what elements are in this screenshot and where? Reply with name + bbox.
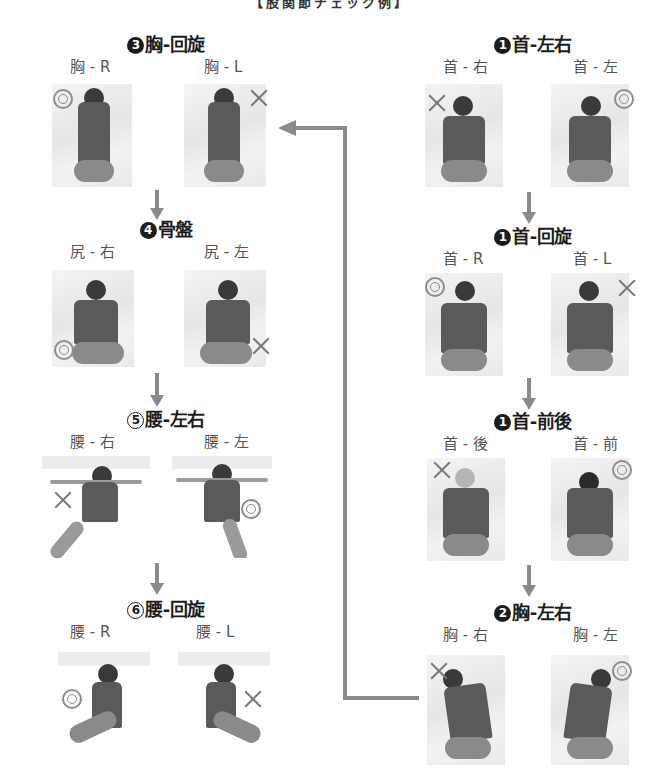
step-number: 1 bbox=[494, 414, 511, 431]
section-heading: 4骨盤 bbox=[46, 220, 286, 240]
figure-legs bbox=[567, 737, 613, 759]
photo-label-left: 胸 - 右 bbox=[443, 623, 488, 644]
step-number: 4 bbox=[140, 222, 157, 239]
photo-label-right: 腰 - L bbox=[196, 620, 234, 641]
photo-label-right: 腰 - 左 bbox=[204, 430, 249, 451]
step-number: 5 bbox=[127, 412, 144, 429]
section-chest-rotation: 3胸-回旋 胸 - R 胸 - L bbox=[46, 35, 286, 73]
section-neck-front-back: 1首-前後 首 - 後 首 - 前 bbox=[413, 412, 653, 450]
figure-legs bbox=[441, 349, 487, 371]
double-circle-icon bbox=[425, 277, 445, 297]
page-title: 【股関節チェック例】 bbox=[215, 0, 445, 6]
figure-body bbox=[78, 102, 110, 164]
flow-connector-horizontal-top bbox=[294, 126, 347, 130]
section-waist-left-right: 5腰-左右 腰 - 右 腰 - 左 bbox=[46, 410, 286, 448]
figure-legs bbox=[211, 708, 264, 745]
section-neck-rotation: 1首-回旋 首 - R 首 - L bbox=[413, 227, 653, 265]
cross-icon bbox=[427, 93, 447, 113]
section-heading: 1首-前後 bbox=[413, 412, 653, 432]
figure-legs bbox=[221, 517, 249, 558]
section-title: 胸-回旋 bbox=[145, 34, 204, 55]
figure-body bbox=[206, 300, 250, 344]
step-number: 1 bbox=[494, 229, 511, 246]
flow-connector-horizontal-bottom bbox=[343, 696, 419, 700]
photo-label-left: 首 - 右 bbox=[443, 55, 488, 76]
double-circle-icon bbox=[612, 661, 632, 681]
double-circle-icon bbox=[614, 89, 634, 109]
figure-legs bbox=[567, 349, 613, 371]
section-title: 首-左右 bbox=[512, 34, 571, 55]
photo-label-left: 胸 - R bbox=[70, 55, 110, 76]
double-circle-icon bbox=[54, 340, 74, 360]
figure-legs bbox=[47, 519, 86, 558]
figure-head bbox=[455, 468, 475, 488]
figure-head bbox=[455, 281, 475, 301]
figure-legs bbox=[441, 160, 487, 182]
figure-body bbox=[208, 102, 240, 164]
figure-body bbox=[74, 300, 118, 344]
section-heading: 3胸-回旋 bbox=[46, 35, 286, 55]
step-number: 2 bbox=[494, 605, 511, 622]
section-heading: 1首-左右 bbox=[413, 35, 653, 55]
step-number: 3 bbox=[127, 37, 144, 54]
figure-head bbox=[214, 664, 234, 684]
cross-icon bbox=[432, 460, 452, 480]
figure-legs bbox=[443, 534, 489, 556]
section-chest-left-right: 2胸-左右 胸 - 右 胸 - 左 bbox=[413, 603, 653, 641]
figure-body bbox=[567, 303, 613, 353]
figure-head bbox=[579, 281, 599, 301]
figure-body bbox=[443, 682, 492, 743]
section-title: 首-回旋 bbox=[512, 226, 571, 247]
figure-legs bbox=[445, 737, 491, 759]
photo-label-left: 腰 - 右 bbox=[70, 430, 115, 451]
figure-head bbox=[86, 280, 106, 300]
figure-legs bbox=[200, 342, 252, 364]
step-number: 6 bbox=[127, 602, 144, 619]
photo-label-right: 首 - 前 bbox=[573, 432, 618, 453]
section-title: 骨盤 bbox=[158, 219, 193, 240]
figure-body bbox=[443, 116, 485, 164]
section-pelvis: 4骨盤 尻 - 右 尻 - 左 bbox=[46, 220, 286, 258]
photo-label-left: 首 - R bbox=[443, 247, 483, 268]
section-heading: 5腰-左右 bbox=[46, 410, 286, 430]
double-circle-icon bbox=[62, 689, 82, 709]
figure-legs bbox=[74, 160, 114, 182]
photo-label-right: 首 - 左 bbox=[573, 55, 618, 76]
section-neck-left-right: 1首-左右 首 - 右 首 - 左 bbox=[413, 35, 653, 73]
figure-body bbox=[567, 488, 613, 538]
section-waist-rotation: 6腰-回旋 腰 - R 腰 - L bbox=[46, 600, 286, 638]
figure-head bbox=[453, 96, 473, 116]
figure-body bbox=[82, 482, 118, 522]
photo-label-right: 胸 - L bbox=[204, 55, 242, 76]
photo-label-right: 胸 - 左 bbox=[573, 623, 618, 644]
photo-label-right: 尻 - 左 bbox=[204, 240, 249, 261]
flow-arrow-left bbox=[278, 120, 296, 136]
figure-legs bbox=[72, 342, 124, 364]
section-title: 腰-左右 bbox=[145, 409, 204, 430]
flow-connector-vertical bbox=[343, 126, 347, 700]
photo-label-left: 腰 - R bbox=[70, 620, 110, 641]
section-heading: 6腰-回旋 bbox=[46, 600, 286, 620]
double-circle-icon bbox=[612, 460, 632, 480]
figure-head bbox=[98, 664, 118, 684]
section-title: 胸-左右 bbox=[512, 602, 571, 623]
figure-head bbox=[581, 96, 601, 116]
section-heading: 1首-回旋 bbox=[413, 227, 653, 247]
section-heading: 2胸-左右 bbox=[413, 603, 653, 623]
section-title: 首-前後 bbox=[512, 411, 571, 432]
cross-icon bbox=[429, 661, 449, 681]
photo-label-left: 首 - 後 bbox=[443, 432, 488, 453]
double-circle-icon bbox=[241, 499, 261, 519]
cross-icon bbox=[53, 490, 73, 510]
section-title: 腰-回旋 bbox=[145, 599, 204, 620]
figure-legs bbox=[567, 534, 613, 556]
photo-label-right: 首 - L bbox=[573, 247, 611, 268]
figure-legs bbox=[567, 160, 613, 182]
cross-icon bbox=[617, 278, 637, 298]
photo-label-left: 尻 - 右 bbox=[70, 240, 115, 261]
cross-icon bbox=[249, 88, 269, 108]
cross-icon bbox=[251, 336, 271, 356]
figure-body bbox=[569, 116, 611, 164]
figure-body bbox=[563, 682, 612, 743]
figure-body bbox=[441, 303, 487, 353]
